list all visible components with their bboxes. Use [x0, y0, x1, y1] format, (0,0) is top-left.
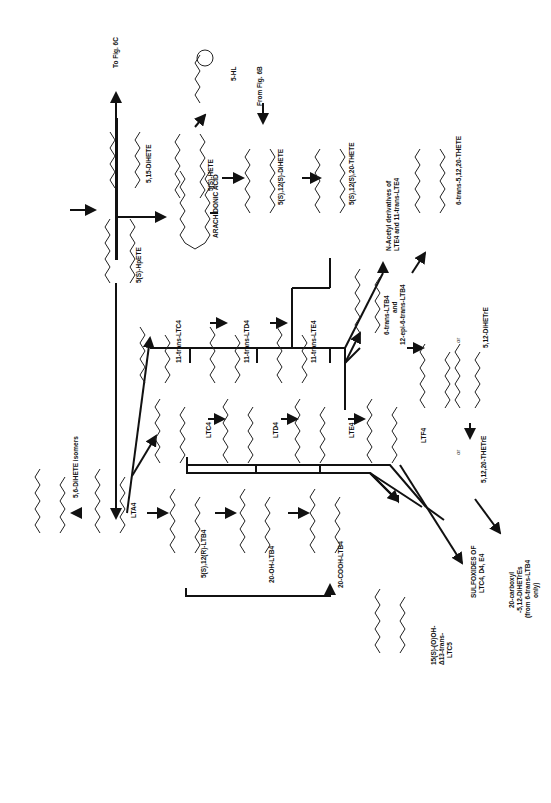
pathway-diagram: ARACHIDONIC ACID 5(S)-HpETE 5,15-DiHETE …: [0, 0, 551, 803]
molecule-structures: [0, 0, 551, 803]
